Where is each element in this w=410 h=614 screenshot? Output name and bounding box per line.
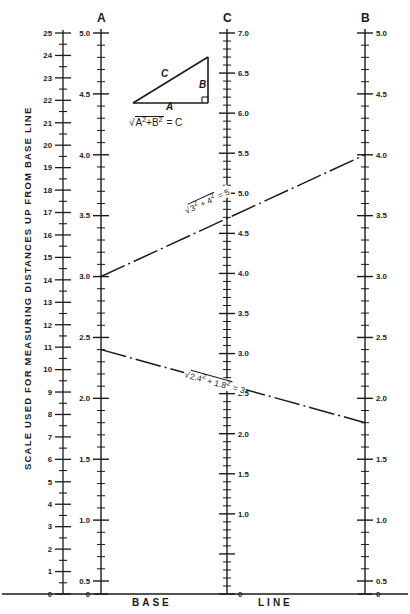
svg-text:0.5: 0.5 — [376, 577, 388, 586]
svg-text:0: 0 — [238, 590, 243, 599]
svg-text:4.0: 4.0 — [238, 269, 250, 278]
svg-text:3.5: 3.5 — [238, 309, 250, 318]
annot1-exp2: 2 — [209, 191, 215, 199]
svg-text:10: 10 — [43, 365, 52, 374]
svg-text:5.0: 5.0 — [79, 29, 91, 38]
svg-text:0: 0 — [86, 590, 91, 599]
svg-text:23: 23 — [43, 74, 52, 83]
svg-text:4: 4 — [48, 500, 53, 509]
svg-text:1.0: 1.0 — [376, 516, 388, 525]
svg-text:17: 17 — [43, 208, 52, 217]
triangle-label-b: B — [199, 79, 206, 90]
svg-text:16: 16 — [43, 231, 52, 240]
nomograph-graphics: 0123456789101112131415161718192021222324… — [0, 0, 410, 614]
svg-text:0: 0 — [376, 590, 381, 599]
svg-text:9: 9 — [48, 388, 53, 397]
annot2-exp1: 2 — [202, 372, 208, 380]
svg-text:4.0: 4.0 — [79, 151, 91, 160]
svg-text:2.0: 2.0 — [376, 394, 388, 403]
svg-text:2.0: 2.0 — [238, 430, 250, 439]
svg-text:2.5: 2.5 — [376, 333, 388, 342]
nomograph-figure: 0123456789101112131415161718192021222324… — [0, 0, 410, 614]
svg-text:1.5: 1.5 — [238, 470, 250, 479]
svg-text:15: 15 — [43, 253, 52, 262]
svg-text:11: 11 — [44, 343, 53, 352]
svg-text:1.0: 1.0 — [238, 510, 250, 519]
svg-text:1.5: 1.5 — [79, 455, 91, 464]
formula-equals: = C — [164, 117, 183, 128]
svg-text:4.5: 4.5 — [376, 90, 388, 99]
triangle-label-a: A — [166, 101, 173, 112]
svg-text:2.0: 2.0 — [79, 394, 91, 403]
svg-text:0: 0 — [48, 590, 53, 599]
svg-text:3: 3 — [48, 522, 53, 531]
svg-text:3.5: 3.5 — [79, 211, 91, 220]
svg-text:3.0: 3.0 — [79, 272, 91, 281]
svg-text:24: 24 — [43, 51, 52, 60]
svg-text:6.5: 6.5 — [238, 69, 250, 78]
svg-text:1.0: 1.0 — [79, 516, 91, 525]
svg-text:2.5: 2.5 — [79, 333, 91, 342]
svg-text:19: 19 — [43, 163, 52, 172]
formula-exp-2: 2 — [159, 116, 163, 123]
svg-text:1.5: 1.5 — [376, 455, 388, 464]
svg-text:5.0: 5.0 — [238, 189, 250, 198]
svg-text:5.5: 5.5 — [238, 149, 250, 158]
radical-sign: √ — [129, 117, 135, 128]
svg-text:4.5: 4.5 — [238, 229, 250, 238]
svg-text:5.0: 5.0 — [376, 29, 388, 38]
svg-text:25: 25 — [43, 29, 52, 38]
svg-text:4.0: 4.0 — [376, 151, 388, 160]
triangle-label-c: C — [161, 68, 168, 79]
svg-text:3.0: 3.0 — [376, 272, 388, 281]
svg-text:21: 21 — [43, 119, 52, 128]
svg-text:12: 12 — [43, 321, 52, 330]
svg-text:6: 6 — [48, 455, 53, 464]
svg-text:20: 20 — [43, 141, 52, 150]
svg-text:18: 18 — [43, 186, 52, 195]
scale-a-header: A — [97, 11, 106, 25]
formula-b: B — [152, 117, 159, 128]
svg-text:22: 22 — [43, 96, 52, 105]
svg-text:7.0: 7.0 — [238, 29, 250, 38]
svg-text:2: 2 — [48, 545, 53, 554]
svg-text:4.5: 4.5 — [79, 90, 91, 99]
svg-text:6.0: 6.0 — [238, 109, 250, 118]
svg-text:13: 13 — [43, 298, 52, 307]
svg-text:0.5: 0.5 — [79, 577, 91, 586]
svg-text:3.0: 3.0 — [238, 349, 250, 358]
svg-text:5: 5 — [48, 478, 53, 487]
scale-b-header: B — [361, 11, 370, 25]
svg-text:3.5: 3.5 — [376, 211, 388, 220]
annot2-exp2: 2 — [227, 379, 233, 387]
svg-text:14: 14 — [43, 276, 52, 285]
scale-c-header: C — [223, 11, 232, 25]
svg-text:7: 7 — [48, 433, 52, 442]
pythagorean-formula: √A2+B2= C — [129, 116, 182, 128]
baseline-word-line: LINE — [258, 597, 293, 608]
vertical-axis-label: SCALE USED FOR MEASURING DISTANCES UP FR… — [22, 140, 33, 470]
baseline-word-base: BASE — [132, 597, 172, 608]
svg-text:1: 1 — [48, 567, 53, 576]
svg-text:8: 8 — [48, 410, 53, 419]
